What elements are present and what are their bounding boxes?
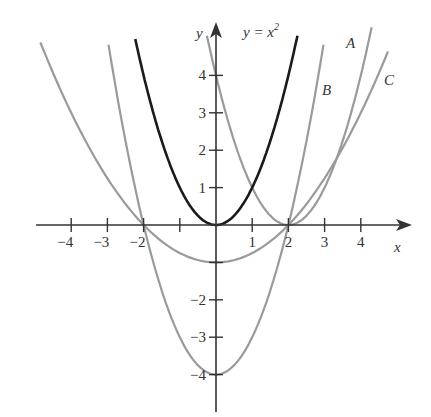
curve-c-label: C xyxy=(384,72,395,88)
graph: −4−3−21234−4−3−21234 x y y = x2 A B C xyxy=(0,0,431,417)
x-tick-label: −2 xyxy=(130,234,146,250)
curve-b-label: B xyxy=(322,82,331,98)
x-axis-label: x xyxy=(393,239,401,255)
y-tick-label: 1 xyxy=(199,180,207,196)
y-axis-label: y xyxy=(194,25,203,41)
x-tick-label: −4 xyxy=(57,234,73,250)
y-tick-label: −2 xyxy=(190,292,206,308)
y-tick-label: 4 xyxy=(199,67,207,83)
curve-main-label: y = x2 xyxy=(241,21,279,40)
x-tick-label: −3 xyxy=(93,234,109,250)
y-tick-label: 2 xyxy=(199,142,207,158)
x-tick-label: 1 xyxy=(248,234,256,250)
x-tick-label: 3 xyxy=(321,234,329,250)
curve-a-label: A xyxy=(345,35,356,51)
y-tick-label: −4 xyxy=(190,367,206,383)
curves-group xyxy=(40,27,388,374)
curve-a xyxy=(207,27,372,225)
y-tick-label: −3 xyxy=(190,329,206,345)
x-tick-label: 2 xyxy=(285,234,293,250)
y-tick-label: 3 xyxy=(199,105,207,121)
x-tick-label: 4 xyxy=(357,234,365,250)
